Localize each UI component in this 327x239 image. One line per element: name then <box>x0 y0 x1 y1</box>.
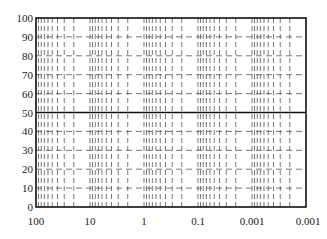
x-tick-label: 0.1 <box>191 215 205 227</box>
y-axis-tick-labels: 0102030405060708090100 <box>17 12 34 213</box>
horizontal-gridlines <box>36 37 306 188</box>
y-tick-label: 20 <box>22 163 34 175</box>
x-tick-label: 0.001 <box>296 215 321 227</box>
y-tick-label: 100 <box>17 12 34 24</box>
y-tick-label: 60 <box>22 88 34 100</box>
y-tick-label: 30 <box>22 144 34 156</box>
x-tick-label: 0.001 <box>240 215 265 227</box>
y-tick-label: 40 <box>22 125 34 137</box>
x-tick-label: 10 <box>85 215 97 227</box>
y-tick-label: 0 <box>28 201 34 213</box>
x-tick-label: 1 <box>141 215 147 227</box>
x-tick-label: 100 <box>28 215 45 227</box>
x-axis-tick-labels: 1001010.10.0010.001 <box>28 215 321 227</box>
y-tick-label: 90 <box>22 31 34 43</box>
y-tick-label: 50 <box>22 107 34 119</box>
y-tick-label: 70 <box>22 69 34 81</box>
y-tick-label: 80 <box>22 50 34 62</box>
y-tick-label: 10 <box>22 182 34 194</box>
log-grid-chart: 0102030405060708090100 1001010.10.0010.0… <box>0 0 327 239</box>
